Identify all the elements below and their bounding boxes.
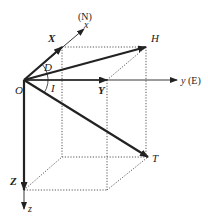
z-component-label: Z [9, 175, 17, 187]
z-axis-label: z [27, 203, 32, 214]
x-axis-label: x [83, 19, 89, 30]
geomagnetic-diagram: (N) x X H D I O Y y (E) T Z z [0, 0, 208, 220]
inclination-label: I [50, 82, 56, 94]
declination-label: D [43, 61, 52, 73]
inclination-arc [44, 73, 48, 93]
x-component-label: X [47, 32, 56, 44]
h-component-label: H [150, 32, 160, 44]
origin-label: O [15, 84, 23, 96]
y-component-label: Y [98, 84, 106, 96]
t-component-label: T [152, 152, 159, 164]
total-field-vector [24, 80, 148, 157]
y-axis-label: y [180, 75, 186, 86]
y-direction-label: (E) [188, 75, 201, 87]
